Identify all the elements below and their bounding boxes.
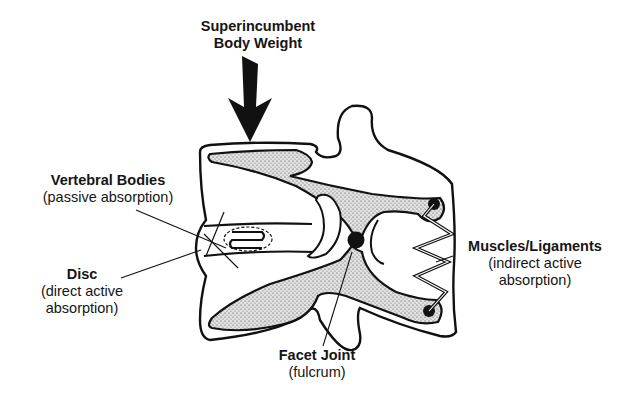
label-muscles-title: Muscles/Ligaments bbox=[455, 238, 615, 255]
label-superincumbent-weight: Superincumbent Body Weight bbox=[188, 18, 328, 52]
label-disc-sub1: (direct active bbox=[22, 283, 142, 300]
label-muscles-ligaments: Muscles/Ligaments (indirect active absor… bbox=[455, 238, 615, 289]
label-facet-joint: Facet Joint (fulcrum) bbox=[262, 347, 372, 381]
label-disc-sub2: absorption) bbox=[22, 300, 142, 317]
label-facet-title: Facet Joint bbox=[262, 347, 372, 364]
label-vertebral-title: Vertebral Bodies bbox=[28, 172, 188, 189]
label-vertebral-bodies: Vertebral Bodies (passive absorption) bbox=[28, 172, 188, 206]
label-disc: Disc (direct active absorption) bbox=[22, 266, 142, 317]
label-vertebral-subtitle: (passive absorption) bbox=[28, 189, 188, 206]
facet-joint-fulcrum-icon bbox=[348, 232, 365, 249]
label-disc-title: Disc bbox=[22, 266, 142, 283]
label-weight-line2: Body Weight bbox=[188, 35, 328, 52]
label-facet-subtitle: (fulcrum) bbox=[262, 364, 372, 381]
label-muscles-sub2: absorption) bbox=[455, 272, 615, 289]
load-arrow-icon bbox=[228, 56, 272, 142]
label-muscles-sub1: (indirect active bbox=[455, 255, 615, 272]
label-weight-line1: Superincumbent bbox=[188, 18, 328, 35]
